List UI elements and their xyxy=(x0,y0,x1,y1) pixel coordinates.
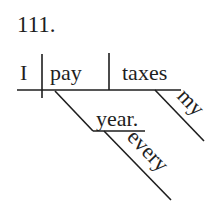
sentence-diagram: 111. I pay taxes year. every my xyxy=(0,0,222,213)
problem-number: 111. xyxy=(17,12,56,37)
object-word: taxes xyxy=(122,60,167,85)
verb-word: pay xyxy=(50,60,82,85)
every-word: every xyxy=(122,124,174,177)
year-word: year. xyxy=(96,106,138,131)
year-diagonal xyxy=(55,91,93,131)
subject-word: I xyxy=(20,60,27,85)
